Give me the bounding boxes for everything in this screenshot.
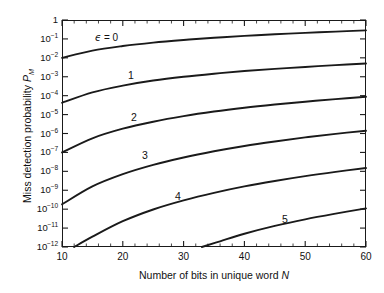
- curve-label-5: 5: [282, 214, 288, 225]
- curve-label-3: 3: [142, 150, 148, 161]
- curve-paths: [62, 30, 366, 247]
- plot-curves: [62, 20, 366, 247]
- x-tick-label: 30: [169, 252, 199, 262]
- x-tick-label: 20: [108, 252, 138, 262]
- curve-label-0: ϵ = 0: [95, 32, 118, 43]
- x-tick-label: 50: [290, 252, 320, 262]
- y-axis-title: Miss detection probability PM: [21, 16, 33, 256]
- curve-label-4: 4: [175, 191, 181, 202]
- curve-label-2: 2: [131, 112, 137, 123]
- curve-epsilon-1: [62, 64, 366, 103]
- curve-label-1: 1: [128, 70, 134, 81]
- x-axis-title: Number of bits in unique word N: [62, 269, 366, 281]
- curve-epsilon-2: [62, 97, 366, 153]
- chart-figure: 110−110−210−310−410−510−610−710−810−910−…: [0, 0, 384, 293]
- x-tick-label: 60: [351, 252, 381, 262]
- x-tick-label: 40: [229, 252, 259, 262]
- curve-epsilon-4: [74, 168, 366, 247]
- x-tick-label: 10: [47, 252, 77, 262]
